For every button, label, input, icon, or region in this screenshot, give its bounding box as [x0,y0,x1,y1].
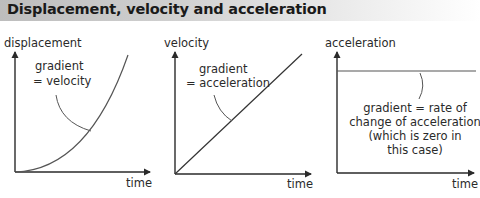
acceleration-graph: acceleration gradient = rate of change o… [325,36,480,191]
annotation-line-4: this case) [387,143,443,157]
y-axis-label-displacement: displacement [4,36,82,50]
annotation-line-3: (which is zero in [368,129,461,143]
velocity-graph: velocity gradient = acceleration time [164,36,313,191]
pointer-line [214,95,232,121]
x-axis-label-time: time [452,177,478,191]
annotation-line-1: gradient = rate of [363,101,467,115]
annotation-line-2: = velocity [33,74,91,88]
x-axis-label-time: time [126,176,152,190]
y-axis-label-acceleration: acceleration [325,36,396,50]
pointer-line [419,73,423,99]
annotation-line-2: = acceleration [186,76,270,90]
y-axis-label-velocity: velocity [164,36,209,50]
motion-graphs: displacement gradient = velocity time ve… [0,0,480,198]
x-axis-label-time: time [287,177,313,191]
pointer-line [56,95,91,131]
annotation-line-1: gradient [199,62,248,76]
annotation-line-1: gradient [35,59,84,73]
annotation-line-2: change of acceleration [349,115,480,129]
displacement-graph: displacement gradient = velocity time [4,36,152,190]
